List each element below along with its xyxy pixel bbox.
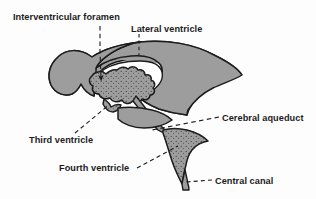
label-lateral-ventricle: Lateral ventricle	[131, 25, 202, 34]
label-interventricular-foramen: Interventricular foramen	[13, 13, 120, 22]
central-canal-leader	[186, 180, 212, 182]
third-ventricle-leader	[75, 104, 110, 133]
label-central-canal: Central canal	[215, 177, 273, 186]
label-cerebral-aqueduct: Cerebral aqueduct	[222, 114, 304, 123]
label-third-ventricle: Third ventricle	[29, 136, 93, 145]
third-ventricle-shape	[89, 67, 154, 104]
ventricular-system-figure: Interventricular foramen Lateral ventric…	[0, 0, 316, 199]
label-fourth-ventricle: Fourth ventricle	[59, 164, 129, 173]
